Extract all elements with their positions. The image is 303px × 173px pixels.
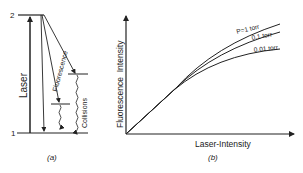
panel-a-caption: (a) [47,153,57,162]
collisions-label: Collisions [81,98,88,128]
fluorescence-label: Fluorescence [51,50,69,93]
curve-p-1-torr [126,24,280,134]
laser-label: Laser [18,72,29,98]
wavy-decay-upper [76,75,78,134]
panel-b-saturation-chart: Fluorescence Intensity Laser-Intensity P… [115,16,294,162]
curve-label-0.1-torr: 0.1 torr [251,30,273,41]
level-2-label: 2 [10,11,15,20]
figure: 2 1 Laser Fluorescence Collisions (a) Fl… [0,0,303,173]
level-1-label: 1 [11,129,16,138]
panel-a-energy-level-diagram: 2 1 Laser Fluorescence Collisions (a) [10,11,88,162]
y-axis-label: Fluorescence Intensity [115,40,125,128]
fluorescence-arrow-direct [41,15,44,131]
curve-p-0.01-torr [126,49,280,134]
curve-label-0.01-torr: 0.01 torr [253,43,279,53]
panel-b-caption: (b) [208,153,218,162]
x-axis-label: Laser-Intensity [195,139,251,149]
wavy-decay-lower [59,105,61,129]
